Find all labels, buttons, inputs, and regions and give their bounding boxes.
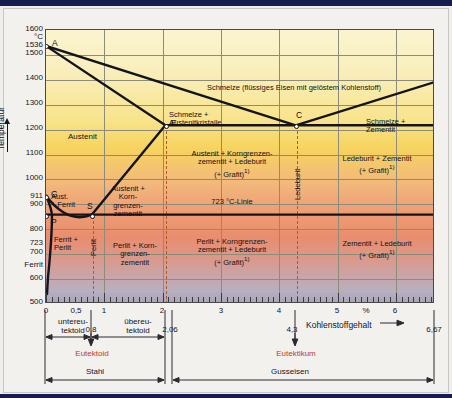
point-dot-E[interactable] xyxy=(164,124,169,129)
ruler-tick xyxy=(180,297,181,302)
ruler-tick xyxy=(209,297,210,302)
region-linie-723: 723 °C-Linie xyxy=(170,198,294,206)
point-label-C: C xyxy=(296,110,302,120)
ruler-tick xyxy=(291,297,292,302)
x-axis-ruler xyxy=(46,293,433,302)
ruler-tick xyxy=(279,293,280,302)
top-navy-bar xyxy=(0,0,452,6)
ruler-tick xyxy=(408,297,409,302)
point-dot-A[interactable] xyxy=(45,44,49,49)
point-label-S: S xyxy=(87,201,93,211)
region-ferrit-perlit-l2: Perlit xyxy=(54,244,78,252)
y-label-ferrit: Ferrit xyxy=(24,261,43,269)
point-dot-S[interactable] xyxy=(90,214,95,219)
phase-diagram-plot: Schmelze (flüssiges Eisen mit gelöstem K… xyxy=(45,29,434,303)
region-pkl-l3-text: (+ Grafit) xyxy=(214,257,244,266)
region-pkl-l3: (+ Grafit)1) xyxy=(170,255,294,267)
ruler-tick xyxy=(367,297,368,302)
ruler-tick xyxy=(215,297,216,302)
y-tick-1000: 1000 xyxy=(25,174,43,182)
region-perlit: Perlit xyxy=(90,239,98,256)
point-label-P: P xyxy=(51,217,57,227)
ruler-tick xyxy=(326,297,327,302)
ruler-tick xyxy=(413,297,414,302)
ruler-tick xyxy=(58,297,59,302)
footnote-4: 1) xyxy=(389,248,395,255)
region-zl-l2: (+ Grafit)1) xyxy=(322,248,432,260)
ruler-tick xyxy=(268,297,269,302)
ruler-tick xyxy=(163,293,164,302)
ruler-tick xyxy=(390,297,391,302)
ruler-tick xyxy=(186,297,187,302)
ruler-tick xyxy=(93,297,94,302)
annotation-eutektoid: Eutektoid xyxy=(63,350,121,359)
point-label-G: G xyxy=(51,189,58,199)
y-tick-800: 800 xyxy=(30,225,43,233)
x-tick-1: 1 xyxy=(98,306,110,315)
ruler-tick xyxy=(87,297,88,302)
region-zl-l1: Zementit + Ledeburit xyxy=(322,240,432,248)
region-pkz-l3: zementit xyxy=(102,259,168,267)
ruler-tick xyxy=(238,297,239,302)
region-lz-l2: (+ Grafit)1) xyxy=(322,163,432,175)
point-label-A: A xyxy=(52,38,58,48)
region-akl-l3-text: (+ Grafit) xyxy=(214,169,244,178)
ruler-tick xyxy=(262,297,263,302)
region-schmelze: Schmelze (flüssiges Eisen mit gelöstem K… xyxy=(164,84,424,92)
footnote-2: 1) xyxy=(389,163,395,170)
bottom-navy-bar xyxy=(0,394,452,398)
point-dot-K[interactable] xyxy=(433,214,435,219)
annotation-gusseisen: Gusseisen xyxy=(255,368,325,377)
annotation-value-08: 0,8 xyxy=(80,326,102,335)
y-axis-title: Temperatur xyxy=(0,107,6,150)
point-dot-C[interactable] xyxy=(294,124,299,129)
ruler-tick xyxy=(297,297,298,302)
point-dot-G[interactable] xyxy=(45,195,49,200)
y-axis-arrow-shaft xyxy=(7,124,8,152)
annotation-value-667: 6,67 xyxy=(420,326,448,335)
y-tick-1200: 1200 xyxy=(25,124,43,132)
region-zementit-ledeburit: Zementit + Ledeburit (+ Grafit)1) xyxy=(322,240,432,260)
ruler-tick xyxy=(69,297,70,302)
ruler-tick xyxy=(355,297,356,302)
ruler-tick xyxy=(303,297,304,302)
ruler-tick xyxy=(128,297,129,302)
region-perlit-korn-ledeburit: Perlit + Korngrenzen- zementit + Ledebur… xyxy=(170,238,294,267)
ruler-tick xyxy=(338,293,339,302)
ruler-tick xyxy=(425,297,426,302)
ruler-tick xyxy=(396,293,397,302)
ruler-tick xyxy=(378,297,379,302)
annotation-stahl: Stahl xyxy=(70,368,120,377)
diagram-root: Temperatur 1600 °C 1536 1500 1400 1300 1… xyxy=(0,0,452,398)
x-tick-4: 4 xyxy=(273,306,285,315)
region-akl-l2: zementit + Ledeburit xyxy=(170,158,294,166)
ruler-tick xyxy=(116,297,117,302)
region-ledeburit-zementit: Ledeburit + Zementit (+ Grafit)1) xyxy=(322,155,432,175)
x-tick-5: 5 xyxy=(331,306,343,315)
ruler-tick xyxy=(373,297,374,302)
region-zl-l2-text: (+ Grafit) xyxy=(359,251,389,260)
x-tick-0: 0 xyxy=(40,306,52,315)
y-tick-500: 500 xyxy=(30,298,43,306)
ruler-tick xyxy=(46,293,47,302)
region-austenit-korn-ledeburit: Austenit + Korngrenzen- zementit + Ledeb… xyxy=(170,150,294,179)
x-axis-title: Kohlenstoffgehalt xyxy=(306,320,372,330)
y-tick-723: 723 xyxy=(30,239,43,247)
annotation-eutektikum: Eutektikum xyxy=(265,350,327,359)
point-dot-D[interactable] xyxy=(433,81,435,86)
region-ledeburit: Ledeburit xyxy=(294,169,302,200)
y-tick-900: 900 xyxy=(30,200,43,208)
ruler-tick xyxy=(361,297,362,302)
ruler-tick xyxy=(273,297,274,302)
region-akl-l3: (+ Grafit)1) xyxy=(170,167,294,179)
y-tick-1400: 1400 xyxy=(25,74,43,82)
region-perlit-korn-zementit: Perlit + Korn- grenzen- zementit xyxy=(102,242,168,267)
point-dot-P[interactable] xyxy=(45,214,49,219)
y-tick-600: 600 xyxy=(30,274,43,282)
footnote-3: 1) xyxy=(244,255,250,262)
region-aust-ferrit-l2: + Ferrit xyxy=(51,201,75,209)
point-dot-F[interactable] xyxy=(433,124,435,129)
ruler-tick xyxy=(81,297,82,302)
ruler-tick xyxy=(244,297,245,302)
ruler-tick xyxy=(402,297,403,302)
